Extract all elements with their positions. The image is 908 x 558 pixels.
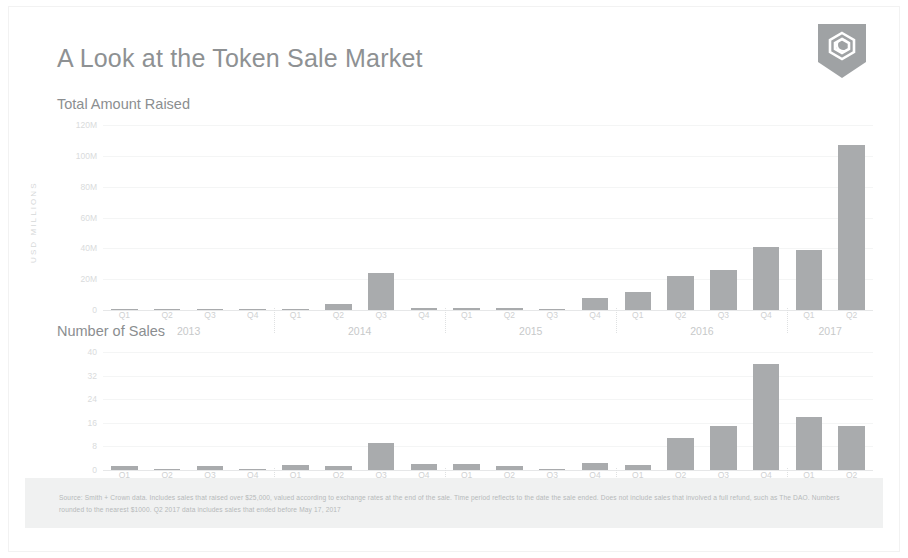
- year-separator: [445, 308, 446, 333]
- bar-slot: [360, 352, 403, 470]
- bar: [838, 145, 865, 310]
- bar: [368, 443, 395, 470]
- bar-slot: [788, 125, 831, 310]
- bar-slot: [445, 352, 488, 470]
- bar-slot: [488, 352, 531, 470]
- y-axis-tick-label: 8: [92, 441, 97, 451]
- bar-slot: [103, 352, 146, 470]
- x-axis-quarter-label: Q3: [189, 310, 232, 320]
- plot-area-amount: 020M40M60M80M100M120M: [103, 125, 873, 310]
- bars-sales: [103, 352, 873, 470]
- bar-slot: [445, 125, 488, 310]
- y-axis-tick-label: 40M: [80, 243, 97, 253]
- x-axis-year-label: 2016: [616, 325, 787, 337]
- bar: [796, 417, 823, 470]
- y-axis-tick-label: 80M: [80, 182, 97, 192]
- bar-slot: [360, 125, 403, 310]
- bar-slot: [402, 125, 445, 310]
- bar: [753, 247, 780, 310]
- bar-slot: [830, 125, 873, 310]
- bar-slot: [317, 125, 360, 310]
- page-title: A Look at the Token Sale Market: [57, 44, 423, 73]
- smith-crown-shield-logo: [816, 22, 868, 80]
- y-axis-tick-label: 20M: [80, 274, 97, 284]
- bar-slot: [616, 125, 659, 310]
- bar-slot: [788, 352, 831, 470]
- bar: [838, 426, 865, 470]
- bar-slot: [702, 352, 745, 470]
- x-axis-quarter-label: Q4: [402, 310, 445, 320]
- slide-canvas: A Look at the Token Sale Market Total Am…: [0, 0, 908, 558]
- bar-slot: [659, 125, 702, 310]
- x-axis-year-label: 2013: [103, 325, 274, 337]
- x-axis-quarter-label: Q2: [659, 310, 702, 320]
- x-axis-quarter-label: Q2: [317, 310, 360, 320]
- chart-total-amount-raised: USD MILLIONS 020M40M60M80M100M120M Q1Q2Q…: [57, 125, 873, 310]
- section-label-total-amount: Total Amount Raised: [57, 96, 190, 112]
- y-axis-tick-label: 32: [88, 371, 97, 381]
- x-axis-quarter-label: Q4: [231, 310, 274, 320]
- bar-slot: [146, 125, 189, 310]
- bar: [710, 270, 737, 310]
- chart-number-of-sales: 0816243240 Q1Q2Q3Q4Q1Q2Q3Q4Q1Q2Q3Q4Q1Q2Q…: [57, 352, 873, 470]
- y-axis-tick-label: 60M: [80, 213, 97, 223]
- bar-slot: [189, 125, 232, 310]
- y-axis-title-amount: USD MILLIONS: [29, 133, 38, 263]
- x-axis-quarter-label: Q1: [788, 310, 831, 320]
- y-axis-tick-label: 16: [88, 418, 97, 428]
- y-axis-tick-label: 24: [88, 394, 97, 404]
- y-axis-tick-label: 0: [92, 305, 97, 315]
- x-axis-quarter-label: Q3: [531, 310, 574, 320]
- x-axis-amount: Q1Q2Q3Q4Q1Q2Q3Q4Q1Q2Q3Q4Q1Q2Q3Q4Q1Q22013…: [103, 310, 873, 344]
- bar: [667, 438, 694, 470]
- bar-slot: [702, 125, 745, 310]
- bar: [667, 276, 694, 310]
- bar-slot: [402, 352, 445, 470]
- y-axis-tick-label: 100M: [76, 151, 97, 161]
- bar-slot: [616, 352, 659, 470]
- bar-slot: [745, 352, 788, 470]
- bar-slot: [531, 352, 574, 470]
- bar-slot: [274, 352, 317, 470]
- x-axis-quarter-label: Q2: [830, 310, 873, 320]
- bar: [625, 292, 652, 311]
- x-axis-quarter-label: Q2: [146, 310, 189, 320]
- y-axis-tick-label: 40: [88, 347, 97, 357]
- x-axis-year-label: 2017: [787, 325, 873, 337]
- year-separator: [787, 308, 788, 333]
- bar-slot: [531, 125, 574, 310]
- bar-slot: [745, 125, 788, 310]
- x-axis-quarter-label: Q4: [745, 310, 788, 320]
- bar: [710, 426, 737, 470]
- bar: [582, 298, 609, 310]
- x-axis-quarter-label: Q2: [488, 310, 531, 320]
- year-separator: [616, 308, 617, 333]
- plot-area-sales: 0816243240: [103, 352, 873, 470]
- x-axis-quarter-label: Q4: [574, 310, 617, 320]
- bar-slot: [231, 125, 274, 310]
- bar-slot: [830, 352, 873, 470]
- bar-slot: [574, 352, 617, 470]
- x-axis-year-label: 2014: [274, 325, 445, 337]
- x-axis-quarter-label: Q3: [360, 310, 403, 320]
- bar-slot: [189, 352, 232, 470]
- y-axis-tick-label: 120M: [76, 120, 97, 130]
- bar-slot: [231, 352, 274, 470]
- x-axis-quarter-label: Q1: [445, 310, 488, 320]
- bar-slot: [574, 125, 617, 310]
- bar-slot: [488, 125, 531, 310]
- year-separator: [274, 308, 275, 333]
- x-axis-year-label: 2015: [445, 325, 616, 337]
- bar-slot: [146, 352, 189, 470]
- bar-slot: [103, 125, 146, 310]
- bar: [753, 364, 780, 470]
- bar-slot: [659, 352, 702, 470]
- x-axis-quarter-label: Q3: [702, 310, 745, 320]
- x-axis-quarter-label: Q1: [274, 310, 317, 320]
- footnote-source-text: Source: Smith + Crown data. Includes sal…: [59, 492, 849, 516]
- y-axis-tick-label: 0: [92, 465, 97, 475]
- bar: [368, 273, 395, 310]
- bars-amount: [103, 125, 873, 310]
- x-axis-quarter-label: Q1: [103, 310, 146, 320]
- bar-slot: [274, 125, 317, 310]
